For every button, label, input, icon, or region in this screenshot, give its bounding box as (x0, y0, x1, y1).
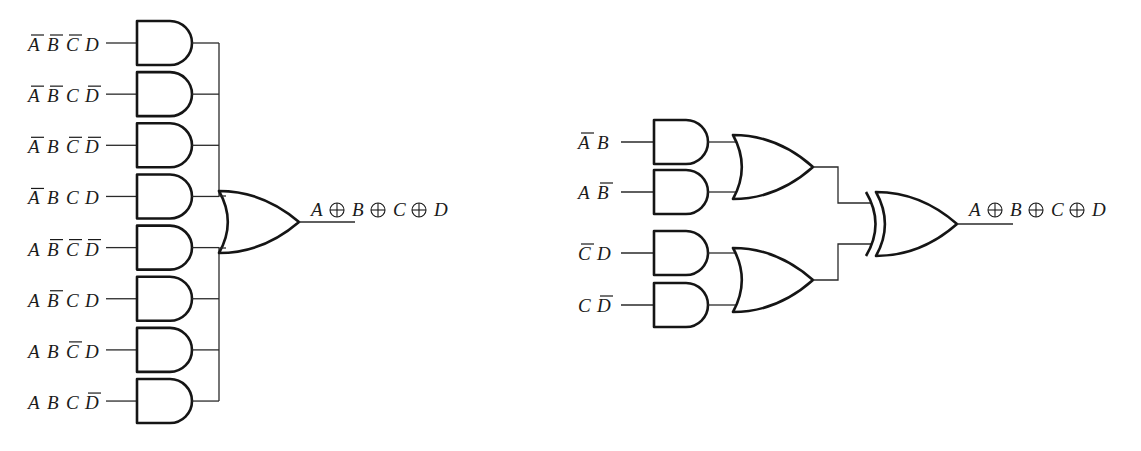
xor-gate (876, 192, 957, 256)
input-term-label: ABCD (26, 239, 101, 260)
variable-a: A (26, 239, 40, 260)
variable-d: D (596, 295, 611, 316)
variable-a: A (26, 290, 40, 311)
variable-a: A (576, 182, 590, 203)
input-term-label: ABCD (26, 85, 101, 106)
variable-d: D (84, 187, 99, 208)
variable-d: D (84, 34, 99, 55)
variable-b: B (47, 290, 59, 311)
input-term-label: ABCD (26, 392, 101, 413)
variable-b: B (47, 239, 59, 260)
and-gate (137, 328, 192, 372)
output-variable-c: C (1051, 199, 1064, 220)
variable-c: C (66, 187, 79, 208)
output-variable-d: D (1091, 199, 1106, 220)
variable-b: B (597, 132, 609, 153)
and-gate (137, 21, 192, 65)
variable-b: B (47, 187, 59, 208)
and-gate (137, 72, 192, 116)
variable-c: C (66, 85, 79, 106)
xor-operator-icon (1029, 203, 1043, 217)
input-term-label: CD (578, 295, 613, 316)
input-term-label: ABCD (26, 290, 99, 311)
or-gate-upper (733, 135, 813, 199)
xor-tree-circuit: ABABCDCDABCD (576, 120, 1106, 327)
and-gate (654, 170, 708, 214)
input-term-label: ABCD (26, 136, 101, 157)
variable-c: C (66, 34, 79, 55)
output-variable-a: A (967, 199, 981, 220)
output-variable-d: D (433, 199, 448, 220)
input-term-label: AB (576, 182, 613, 203)
variable-a: A (26, 187, 40, 208)
variable-a: A (576, 132, 590, 153)
output-expression-label: ABCD (967, 199, 1106, 220)
or-gate (219, 191, 299, 253)
input-term-label: AB (576, 132, 609, 153)
variable-d: D (84, 239, 99, 260)
output-expression-label: ABCD (309, 199, 448, 220)
variable-c: C (66, 290, 79, 311)
and-gate (137, 226, 192, 270)
input-term-label: ABCD (26, 341, 99, 362)
or-to-xor-wire-upper (813, 167, 872, 203)
variable-d: D (84, 341, 99, 362)
input-term-label: ABCD (26, 34, 99, 55)
variable-b: B (47, 34, 59, 55)
variable-b: B (47, 392, 59, 413)
logic-diagram-canvas: ABCDABCDABCDABCDABCDABCDABCDABCDABCD ABA… (0, 0, 1141, 451)
variable-b: B (597, 182, 609, 203)
and-gate (654, 283, 708, 327)
variable-b: B (47, 85, 59, 106)
xor-operator-icon (988, 203, 1002, 217)
variable-c: C (66, 392, 79, 413)
output-variable-a: A (309, 199, 323, 220)
variable-a: A (26, 392, 40, 413)
variable-b: B (47, 341, 59, 362)
variable-d: D (84, 85, 99, 106)
input-term-label: CD (578, 243, 611, 264)
input-term-label: ABCD (26, 187, 99, 208)
output-variable-c: C (393, 199, 406, 220)
xor-operator-icon (1070, 203, 1084, 217)
variable-d: D (84, 392, 99, 413)
or-gate-lower (733, 248, 813, 312)
variable-c: C (578, 295, 591, 316)
xor-operator-icon (371, 203, 385, 217)
output-variable-b: B (1010, 199, 1022, 220)
variable-d: D (84, 290, 99, 311)
variable-a: A (26, 341, 40, 362)
and-gate (654, 120, 708, 164)
variable-a: A (26, 136, 40, 157)
variable-c: C (66, 239, 79, 260)
output-variable-b: B (352, 199, 364, 220)
variable-c: C (66, 341, 79, 362)
sum-of-products-circuit: ABCDABCDABCDABCDABCDABCDABCDABCDABCD (26, 21, 448, 423)
variable-d: D (596, 243, 611, 264)
and-gate (137, 123, 192, 167)
xor-operator-icon (412, 203, 426, 217)
or-to-xor-wire-lower (813, 244, 872, 280)
and-gate (654, 231, 708, 275)
variable-b: B (47, 136, 59, 157)
variable-a: A (26, 85, 40, 106)
variable-a: A (26, 34, 40, 55)
and-gate (137, 174, 192, 218)
and-gate (137, 379, 192, 423)
and-gate (137, 277, 192, 321)
variable-d: D (84, 136, 99, 157)
variable-c: C (66, 136, 79, 157)
xor-operator-icon (330, 203, 344, 217)
xor-gate-back-curve (866, 192, 876, 256)
variable-c: C (578, 243, 591, 264)
